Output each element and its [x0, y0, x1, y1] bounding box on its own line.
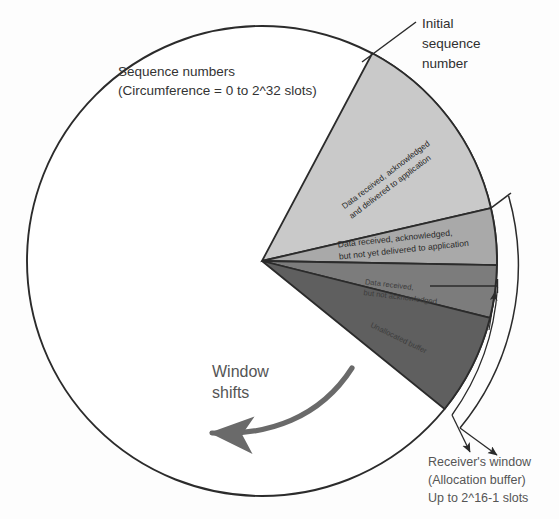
initial-sequence-number-line1: Initial [422, 16, 454, 31]
diagram-canvas: Sequence numbers (Circumference = 0 to 2… [0, 0, 559, 519]
window-shifts-line2: shifts [212, 384, 249, 401]
sequence-numbers-line2: (Circumference = 0 to 2^32 slots) [118, 83, 317, 98]
receiver-window-line2: (Allocation buffer) [428, 473, 526, 487]
window-shifts-line1: Window [212, 363, 269, 380]
sequence-numbers-line1: Sequence numbers [118, 64, 235, 79]
outer-arc-top-tick [491, 193, 511, 208]
receiver-window-line3: Up to 2^16-1 slots [428, 491, 528, 505]
receiver-window-line1: Receiver's window [428, 455, 532, 469]
tcp-window-diagram: Sequence numbers (Circumference = 0 to 2… [0, 0, 559, 519]
initial-sequence-number-line2: sequence [422, 36, 481, 51]
initial-sequence-number-leader [362, 22, 416, 62]
initial-sequence-number-line3: number [422, 56, 468, 71]
